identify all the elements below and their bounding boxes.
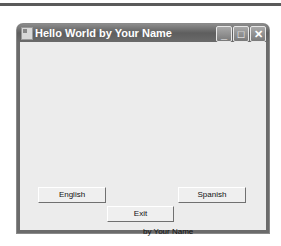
spanish-button[interactable]: Spanish xyxy=(178,187,246,203)
window-title: Hello World by Your Name xyxy=(35,26,172,40)
english-button[interactable]: English xyxy=(38,187,106,203)
close-button[interactable]: ✕ xyxy=(250,26,266,42)
top-border-line xyxy=(0,3,281,6)
form-design-surface: English Spanish Exit by Your Name xyxy=(20,42,266,230)
app-icon xyxy=(21,27,33,40)
form-window: Hello World by Your Name _ □ ✕ English S… xyxy=(17,24,269,233)
exit-button[interactable]: Exit xyxy=(107,206,174,222)
minimize-button[interactable]: _ xyxy=(216,26,232,42)
title-bar[interactable]: Hello World by Your Name _ □ ✕ xyxy=(17,24,269,42)
maximize-button[interactable]: □ xyxy=(233,26,249,42)
by-your-name-label: by Your Name xyxy=(143,227,193,236)
